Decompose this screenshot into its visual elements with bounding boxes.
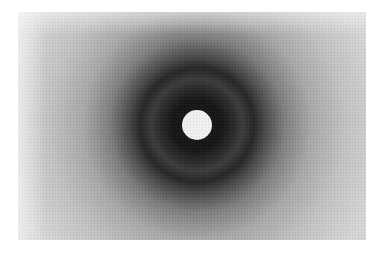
diffraction-pattern-photo bbox=[18, 12, 366, 240]
beam-stop bbox=[182, 110, 212, 140]
diffraction-rings bbox=[18, 12, 366, 240]
